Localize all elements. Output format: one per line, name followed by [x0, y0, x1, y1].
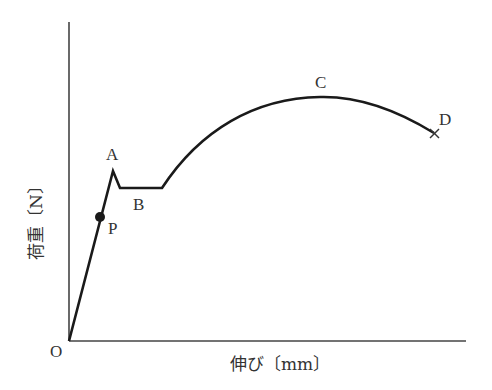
x-axis-label: 伸び〔mm〕 [230, 350, 330, 375]
point-d-cross-marker [430, 129, 439, 138]
load-curve [69, 97, 434, 341]
point-d-label: D [439, 111, 451, 128]
y-axis-label: 荷重〔N〕 [22, 177, 47, 260]
load-elongation-diagram [0, 0, 492, 390]
point-a-label: A [106, 146, 118, 163]
point-c-label: C [315, 74, 326, 91]
y-axis-label-container: 荷重〔N〕 [22, 150, 44, 260]
point-p-marker [95, 212, 105, 222]
point-b-label: B [133, 196, 144, 213]
point-p-label: P [108, 220, 117, 237]
origin-label: O [50, 343, 62, 360]
